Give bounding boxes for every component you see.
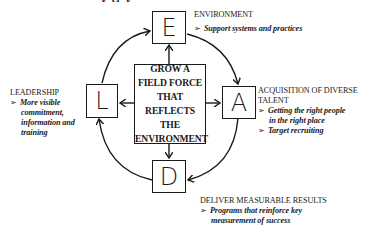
bullet-arrow-icon: ➢ <box>10 98 17 107</box>
label-deliver-bullet-cont: measurement of success <box>200 216 327 226</box>
node-e-letter: E <box>161 14 176 42</box>
label-leadership-bullet-cont-3: training <box>10 128 75 138</box>
label-environment-heading: ENVIRONMENT <box>194 10 302 20</box>
node-l-box: L <box>86 84 118 118</box>
node-a-letter: A <box>231 89 247 117</box>
label-acquisition-bullet-1: ➢Getting the right people <box>258 106 358 116</box>
label-acquisition-bullet-2: ➢Target recruiting <box>258 126 358 136</box>
label-leadership: LEADERSHIP ➢More visible commitment, inf… <box>10 88 75 138</box>
node-a-box: A <box>222 86 256 119</box>
label-acquisition: ACQUISITION OF DIVERSE TALENT ➢Getting t… <box>258 86 358 136</box>
label-acquisition-heading-2: TALENT <box>258 96 358 106</box>
label-deliver-heading: DELIVER MEASURABLE RESULTS <box>200 196 327 206</box>
node-l-letter: L <box>95 87 108 115</box>
label-leadership-heading: LEADERSHIP <box>10 88 75 98</box>
label-leadership-bullet-cont-1: commitment, <box>10 108 75 118</box>
center-goal-box: GROW A FIELD FORCE THAT REFLECTS THE ENV… <box>134 64 206 144</box>
center-goal-text: GROW A FIELD FORCE THAT REFLECTS THE ENV… <box>135 62 205 146</box>
bullet-arrow-icon: ➢ <box>200 206 207 215</box>
label-environment: ENVIRONMENT ➢Support systems and practic… <box>194 10 302 34</box>
label-deliver-bullet: ➢Programs that reinforce key <box>200 206 327 216</box>
label-leadership-bullet: ➢More visible <box>10 98 75 108</box>
label-acquisition-bullet-1-cont: in the right place <box>258 116 358 126</box>
label-acquisition-heading-1: ACQUISITION OF DIVERSE <box>258 86 358 96</box>
bullet-arrow-icon: ➢ <box>194 24 201 33</box>
label-leadership-bullet-cont-2: information and <box>10 118 75 128</box>
bullet-arrow-icon: ➢ <box>258 126 265 135</box>
node-e-box: E <box>152 11 186 44</box>
node-d-letter: D <box>160 163 178 191</box>
label-environment-bullet: ➢Support systems and practices <box>194 24 302 34</box>
bullet-arrow-icon: ➢ <box>258 106 265 115</box>
label-deliver: DELIVER MEASURABLE RESULTS ➢Programs tha… <box>200 196 327 226</box>
node-d-box: D <box>152 160 186 193</box>
